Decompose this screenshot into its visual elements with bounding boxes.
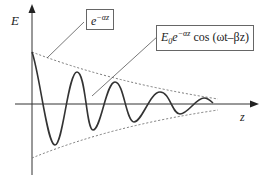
envelope-label: e−αz [86, 9, 114, 30]
envelope-leader-line [47, 22, 84, 58]
x-axis-arrow-icon [250, 101, 259, 108]
x-axis-label: z [240, 110, 245, 125]
upper-envelope [32, 52, 218, 99]
wave-equation-label: E0e−αz cos (ωt–βz) [156, 25, 254, 51]
wave-leader-line [92, 36, 158, 96]
wave-exponent: −αz [178, 29, 191, 38]
wave-cos-term: cos (ωt–βz) [190, 30, 249, 44]
damped-cosine-curve [32, 52, 213, 145]
y-axis-label: E [11, 13, 19, 29]
envelope-exponent: −αz [96, 13, 109, 22]
y-axis-arrow-icon [29, 4, 36, 13]
